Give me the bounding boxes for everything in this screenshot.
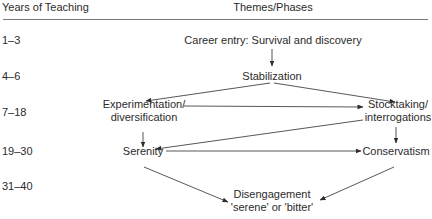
arrow-serenity-to-disengagement [144,167,228,202]
arrow-conservatism-to-disengagement [320,167,394,200]
arrow-experimentation-to-stocktaking [184,106,363,107]
arrow-stocktaking-to-serenity [156,120,363,149]
diagram-arrows [0,0,432,219]
arrow-stabilization-to-stocktaking [274,83,395,102]
arrow-stabilization-to-experimentation [146,83,270,101]
